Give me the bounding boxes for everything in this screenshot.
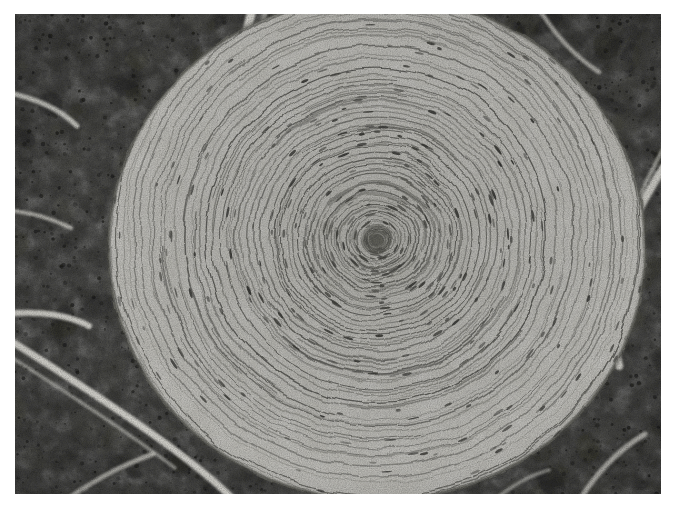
figure-container <box>0 0 677 514</box>
photomicrograph-plate <box>15 14 661 494</box>
micrograph-canvas <box>15 14 661 494</box>
